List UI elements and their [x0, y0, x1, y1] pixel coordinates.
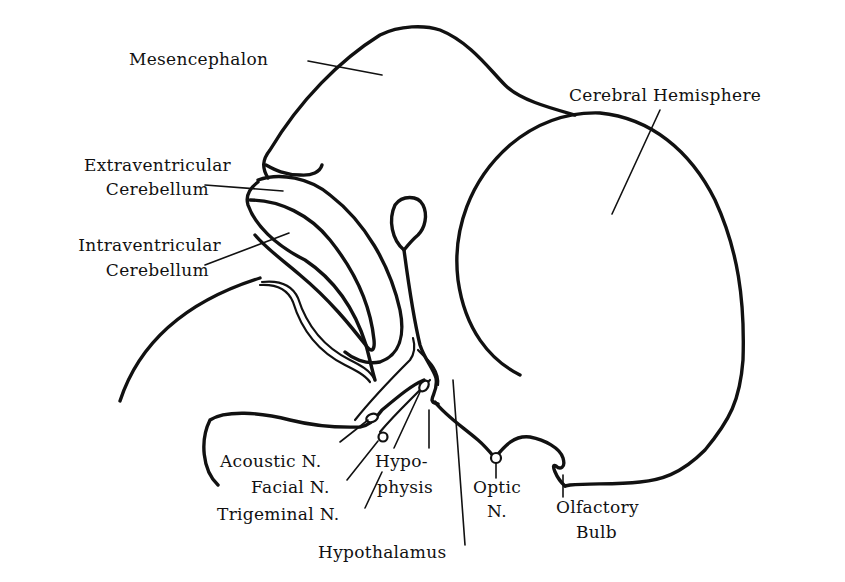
- leader-facial: [347, 441, 378, 480]
- label-intraventricular-cerebellum-line1: Intraventricular: [33, 234, 221, 256]
- label-olfactory-bulb-line1: Olfactory: [556, 496, 639, 518]
- label-intraventricular-cerebellum-line2: Cerebellum: [33, 259, 209, 281]
- label-olfactory-bulb-line2: Bulb: [576, 521, 617, 543]
- label-hypophysis-line2: physis: [377, 476, 433, 498]
- label-hypothalamus: Hypothalamus: [318, 541, 446, 563]
- label-extraventricular-cerebellum-line2: Cerebellum: [33, 178, 209, 200]
- label-optic-n-line1: Optic: [466, 476, 528, 498]
- cerebral-hemisphere-outline: [457, 113, 743, 486]
- leader-mesencephalon: [308, 61, 382, 75]
- leader-hypothalamus: [453, 380, 465, 545]
- label-acoustic-n: Acoustic N.: [220, 450, 321, 472]
- cerebellum-lower-fold-a: [262, 282, 375, 380]
- facial-ganglion: [379, 433, 388, 442]
- leader-hypophysis: [394, 392, 420, 448]
- mesencephalon-outline: [264, 27, 575, 178]
- label-hypophysis-line1: Hypo-: [375, 450, 428, 472]
- cerebellum-lower-fold-b: [260, 285, 370, 382]
- mesencephalon-lip: [266, 165, 322, 175]
- medulla-curve: [120, 278, 260, 401]
- leader-cerebral-hemisphere: [612, 110, 660, 214]
- label-mesencephalon: Mesencephalon: [129, 48, 268, 70]
- acoustic-ganglion: [365, 412, 379, 424]
- hypophysis-pocket: [392, 198, 426, 251]
- brain-floor-outline: [435, 402, 565, 486]
- label-cerebral-hemisphere: Cerebral Hemisphere: [569, 84, 761, 106]
- label-trigeminal-n: Trigeminal N.: [217, 503, 339, 525]
- label-extraventricular-cerebellum-line1: Extraventricular: [33, 154, 231, 176]
- label-optic-n-line2: N.: [466, 500, 528, 522]
- leader-extraventricular: [205, 185, 283, 191]
- optic-chiasm: [491, 453, 501, 463]
- label-facial-n: Facial N.: [251, 476, 330, 498]
- leader-acoustic: [340, 420, 368, 442]
